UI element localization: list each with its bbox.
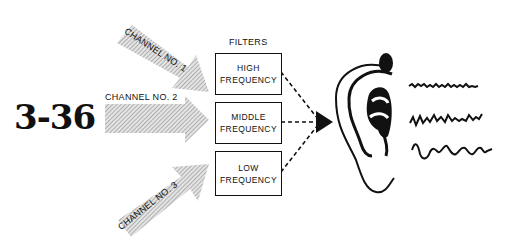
figure-number: 3-36 <box>14 97 95 137</box>
middle-frequency-wave <box>410 114 482 125</box>
filter-line1: MIDDLE <box>231 111 266 123</box>
high-frequency-filter: HIGH FREQUENCY <box>215 53 282 95</box>
low-frequency-filter: LOW FREQUENCY <box>215 151 282 196</box>
ear-icon <box>336 53 394 192</box>
middle-frequency-filter: MIDDLE FREQUENCY <box>215 102 282 144</box>
low-frequency-wave <box>412 144 492 158</box>
channel-3-arrow <box>118 164 209 237</box>
channel-2-arrow <box>105 96 209 143</box>
high-frequency-wave <box>409 84 478 87</box>
filter-line1: HIGH <box>237 62 260 74</box>
waveforms <box>409 84 492 158</box>
arrowhead-icon <box>316 111 333 133</box>
filter-line1: LOW <box>238 162 259 174</box>
dashed-connectors <box>281 72 318 172</box>
filter-line2: FREQUENCY <box>220 123 277 135</box>
filter-line2: FREQUENCY <box>220 74 277 86</box>
filter-diagram: 3-36 CHANNEL NO. 1 CHANNEL NO. 2 CHANNEL… <box>0 0 513 242</box>
filter-line2: FREQUENCY <box>220 174 277 186</box>
channel-2-label: CHANNEL NO. 2 <box>105 92 178 102</box>
filters-heading: FILTERS <box>229 37 267 47</box>
